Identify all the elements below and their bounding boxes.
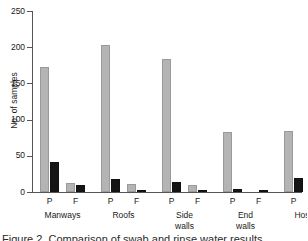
y-axis-tick: [27, 120, 32, 121]
bar-series-layer: [33, 11, 302, 192]
bar-black: [294, 178, 303, 192]
y-axis-tick-label: 0: [20, 188, 25, 197]
y-axis-tick-label: 100: [11, 115, 25, 124]
x-axis-group-label-line: Hoses: [277, 210, 308, 221]
y-axis-tick: [27, 156, 32, 157]
y-axis-tick: [27, 83, 32, 84]
x-axis-group-label-line: End: [216, 210, 276, 221]
x-axis-group-label-line: Roofs: [94, 210, 154, 221]
y-axis-tick-label: 200: [11, 43, 25, 52]
y-axis-tick: [27, 47, 32, 48]
bar-grey: [188, 185, 197, 192]
figure-caption-sliver: Figure 2. Comparison of swab and rinse w…: [2, 233, 305, 241]
bar-black: [50, 162, 59, 192]
x-axis-group-label: Sidewalls: [155, 210, 215, 231]
x-axis-subcategory-label: P: [284, 196, 304, 206]
bar-black: [172, 182, 181, 192]
bar-black: [137, 190, 146, 192]
x-axis-subcategory-label: P: [162, 196, 182, 206]
y-axis-tick-label: 150: [11, 79, 25, 88]
bar-grey: [223, 132, 232, 192]
x-axis-group-label-line: Manways: [33, 210, 93, 221]
x-axis-subcategory-label: P: [40, 196, 60, 206]
x-axis-group-label-line: walls: [155, 221, 215, 232]
bar-grey: [66, 183, 75, 192]
bar-grey: [101, 45, 110, 192]
bar-grey: [40, 67, 49, 192]
x-axis-group-label: Manways: [33, 210, 93, 221]
x-axis-subcategory-label: F: [249, 196, 269, 206]
bar-black: [198, 190, 207, 192]
x-axis-group-label-line: walls: [216, 221, 276, 232]
x-axis-subcategory-label: P: [223, 196, 243, 206]
bar-black: [111, 179, 120, 192]
x-axis-group-label: Hoses: [277, 210, 308, 221]
bar-grey: [162, 59, 171, 192]
x-axis-subcategory-label: F: [127, 196, 147, 206]
bar-grey: [284, 131, 293, 192]
bar-chart-figure: No. of samples 050100150200250 PFPFPFPFP…: [0, 0, 307, 241]
bar-grey: [127, 184, 136, 192]
y-axis-title: No. of samples: [10, 53, 19, 149]
y-axis-tick: [27, 192, 32, 193]
x-axis-subcategory-label: P: [101, 196, 121, 206]
bar-black: [76, 185, 85, 192]
x-axis-group-label-line: Side: [155, 210, 215, 221]
bar-black: [233, 189, 242, 192]
x-axis-group-label: Roofs: [94, 210, 154, 221]
x-axis-group-label: Endwalls: [216, 210, 276, 231]
x-axis-subcategory-label: F: [66, 196, 86, 206]
x-axis-subcategory-label: F: [188, 196, 208, 206]
y-axis-tick-label: 250: [11, 7, 25, 16]
y-axis-tick: [27, 11, 32, 12]
bar-black: [259, 190, 268, 192]
y-axis-tick-label: 50: [16, 151, 25, 160]
x-axis-line: [32, 192, 302, 193]
